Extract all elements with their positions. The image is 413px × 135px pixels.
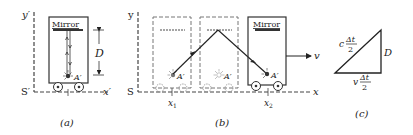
- svg-text:Δt: Δt: [345, 35, 356, 44]
- light-clock-diagram: y′ S′ x′ Mirror A′: [0, 0, 413, 135]
- panel-a: y′ S′ x′ Mirror A′: [21, 9, 112, 128]
- x-label: x: [313, 86, 319, 97]
- caption-c: (c): [355, 108, 369, 119]
- x-prime-label: x′: [103, 86, 112, 97]
- y-label: y: [127, 9, 134, 20]
- source-label: A′: [73, 73, 82, 82]
- wheels: [54, 83, 84, 92]
- y-prime-label: y′: [21, 9, 31, 20]
- svg-text:c: c: [339, 39, 344, 49]
- light-source-icon: [265, 72, 269, 76]
- svg-text:Δt: Δt: [359, 73, 370, 82]
- light-path-up: [173, 30, 218, 74]
- mirror-icon: [53, 29, 83, 31]
- distance-label: D: [94, 47, 104, 60]
- x2-label: x2: [264, 98, 273, 109]
- svg-text:A′: A′: [270, 71, 279, 80]
- s-label: S: [127, 86, 134, 97]
- light-source-icon: [63, 70, 73, 80]
- svg-text:A′: A′: [223, 72, 232, 81]
- ghost-clock-2: A′: [200, 17, 238, 92]
- mirror-label: Mirror: [253, 20, 280, 29]
- mirror-label: Mirror: [52, 20, 79, 29]
- base-label: v Δt 2: [353, 73, 371, 92]
- velocity-label: v: [314, 50, 320, 61]
- moving-clock: Mirror A′: [248, 17, 286, 91]
- side-d-label: D: [383, 47, 392, 58]
- svg-text:2: 2: [348, 45, 353, 54]
- panel-c: c Δt 2 D v Δt 2 (c): [335, 30, 392, 119]
- light-path-down: [218, 30, 267, 74]
- caption-b: (b): [215, 117, 229, 128]
- svg-text:2: 2: [362, 83, 367, 92]
- svg-text:A′: A′: [176, 72, 185, 81]
- caption-a: (a): [60, 117, 74, 128]
- mirror-icon: [255, 29, 280, 31]
- svg-text:v: v: [353, 77, 358, 87]
- ghost-clock-1: A′: [153, 17, 191, 92]
- panel-b: y S A′ x1: [127, 9, 320, 128]
- hypotenuse-label: c Δt 2: [339, 35, 357, 54]
- triangle: [335, 30, 381, 73]
- s-prime-label: S′: [21, 86, 31, 97]
- x1-label: x1: [168, 98, 177, 109]
